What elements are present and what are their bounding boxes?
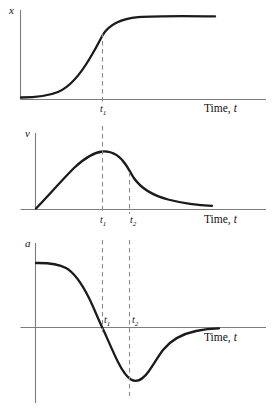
acceleration-t2-label: t2 (132, 314, 139, 328)
velocity-x-axis-label-text: Time, (204, 213, 231, 226)
panel-position: x t1 Time,t (8, 4, 266, 117)
position-t1-label-sub: 1 (103, 109, 107, 117)
acceleration-curve (36, 263, 219, 381)
velocity-t1-label: t1 (100, 214, 106, 228)
position-x-axis-label: Time,t (204, 102, 238, 115)
position-x-axis-label-text: Time, (204, 102, 231, 115)
acceleration-t1-label: t1 (104, 314, 110, 328)
position-x-axis-label-var: t (234, 102, 238, 114)
position-curve (21, 16, 215, 97)
acceleration-y-axis-label: a (25, 237, 31, 249)
acceleration-x-axis-label-var: t (234, 331, 238, 343)
position-t1-label: t1 (100, 103, 106, 117)
panel-acceleration: a t1 t2 Time,t (21, 237, 267, 403)
velocity-x-axis-label: Time,t (204, 213, 238, 226)
kinematics-figure: x t1 Time,t v t1 t2 Time,t a t1 t2 Time,… (0, 0, 279, 408)
velocity-x-axis-label-var: t (234, 213, 238, 225)
position-y-axis-label: x (8, 4, 14, 16)
acceleration-t2-label-sub: 2 (135, 320, 139, 328)
velocity-t2-label-sub: 2 (133, 220, 137, 228)
velocity-y-axis-label: v (25, 127, 30, 139)
velocity-t1-label-sub: 1 (103, 220, 107, 228)
velocity-t2-label: t2 (130, 214, 137, 228)
acceleration-x-axis-label: Time,t (204, 331, 238, 344)
panel-velocity: v t1 t2 Time,t (21, 126, 267, 228)
acceleration-t1-label-sub: 1 (107, 320, 111, 328)
velocity-curve (36, 151, 212, 208)
acceleration-x-axis-label-text: Time, (204, 331, 231, 344)
